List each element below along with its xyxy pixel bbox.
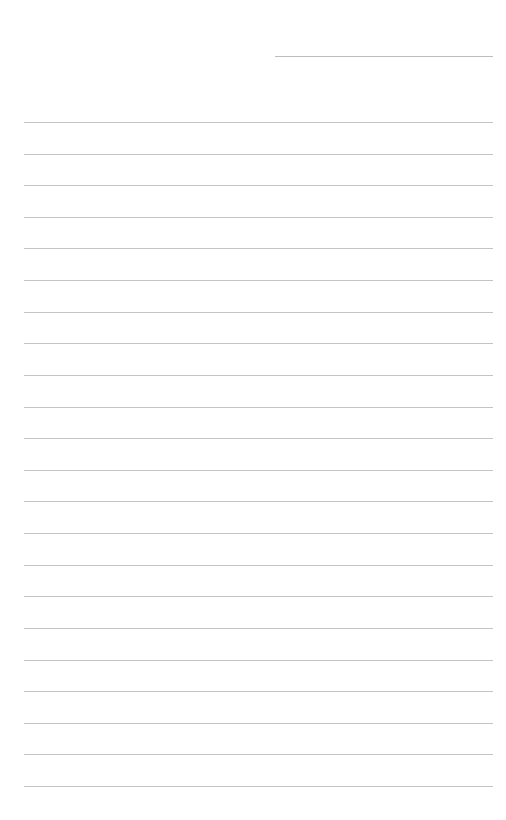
header-write-line[interactable]	[275, 56, 493, 57]
ruled-line[interactable]	[24, 754, 493, 755]
ruled-line[interactable]	[24, 248, 493, 249]
ruled-line[interactable]	[24, 628, 493, 629]
ruled-line[interactable]	[24, 312, 493, 313]
ruled-line[interactable]	[24, 280, 493, 281]
ruled-line[interactable]	[24, 723, 493, 724]
ruled-line[interactable]	[24, 438, 493, 439]
ruled-line[interactable]	[24, 375, 493, 376]
ruled-line[interactable]	[24, 185, 493, 186]
ruled-line[interactable]	[24, 660, 493, 661]
ruled-line[interactable]	[24, 154, 493, 155]
ruled-line[interactable]	[24, 343, 493, 344]
ruled-line[interactable]	[24, 122, 493, 123]
ruled-line[interactable]	[24, 691, 493, 692]
ruled-line[interactable]	[24, 470, 493, 471]
ruled-line[interactable]	[24, 217, 493, 218]
ruled-line[interactable]	[24, 501, 493, 502]
lined-page	[0, 0, 506, 820]
ruled-line[interactable]	[24, 596, 493, 597]
ruled-line[interactable]	[24, 533, 493, 534]
ruled-line[interactable]	[24, 786, 493, 787]
ruled-line[interactable]	[24, 407, 493, 408]
ruled-line[interactable]	[24, 565, 493, 566]
